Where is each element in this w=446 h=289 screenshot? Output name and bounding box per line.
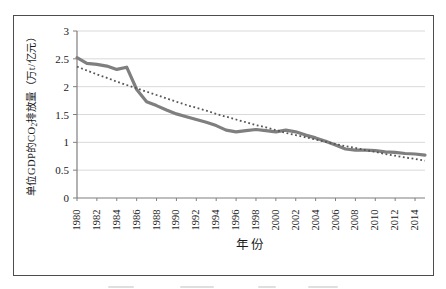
cropped-caption-remnant	[108, 286, 134, 288]
cropped-caption-remnant	[308, 286, 338, 288]
x-tick-label: 2012	[389, 210, 401, 231]
y-axis-title-subscript: 2	[30, 123, 39, 127]
x-tick-label: 1996	[230, 210, 242, 231]
y-tick-label: 1	[33, 135, 69, 149]
solid-line	[77, 58, 425, 155]
x-tick-label: 2008	[349, 210, 361, 231]
x-tick-label: 2000	[270, 210, 282, 231]
dotted-trendline	[77, 67, 425, 161]
cropped-caption-remnant	[258, 286, 276, 288]
x-tick-label: 2010	[369, 210, 381, 231]
x-tick-label: 1992	[190, 210, 202, 231]
x-tick-label: 2014	[409, 210, 421, 231]
y-tick-label: 0	[33, 191, 69, 205]
x-tick-label: 1984	[111, 210, 123, 231]
x-tick-label: 1986	[131, 210, 143, 231]
cropped-caption-remnant	[180, 286, 214, 288]
x-tick-label: 1998	[250, 210, 262, 231]
y-tick-label: 2.5	[33, 52, 69, 66]
y-tick-label: 0.5	[33, 163, 69, 177]
y-tick-label: 1.5	[33, 108, 69, 122]
x-tick-label: 2006	[330, 210, 342, 231]
x-tick-label: 1982	[91, 210, 103, 231]
x-tick-label: 1994	[210, 210, 222, 231]
y-tick-label: 3	[33, 24, 69, 38]
x-tick-label: 2004	[310, 210, 322, 231]
x-tick-label: 1990	[170, 210, 182, 231]
chart-figure: 单位GDP的CO2排放量（万t/亿元） 32.521.510.50 198019…	[0, 0, 446, 289]
x-axis-title: 年份	[236, 234, 266, 253]
x-tick-label: 1980	[71, 210, 83, 231]
x-tick-label: 2002	[290, 210, 302, 231]
x-tick-label: 1988	[151, 210, 163, 231]
y-tick-label: 2	[33, 80, 69, 94]
